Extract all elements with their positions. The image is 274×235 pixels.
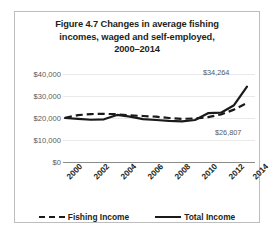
data-label-total-income: $34,264	[203, 68, 229, 77]
series-plot	[63, 74, 255, 174]
plot-wrapper: $40,000 $30,000 $20,000 $10,000 $0 $34,2…	[15, 74, 259, 174]
chart-title-line-3: 2000–2014	[25, 43, 249, 56]
legend-label-total-income: Total Income	[184, 212, 235, 222]
y-axis-tick-label: $30,000	[17, 92, 61, 101]
chart-legend: Fishing Income Total Income	[15, 209, 259, 225]
y-axis-tick-label: $20,000	[17, 114, 61, 123]
y-axis: $40,000 $30,000 $20,000 $10,000 $0	[15, 74, 61, 174]
chart-title-line-1: Figure 4.7 Changes in average fishing	[25, 18, 249, 31]
figure-container: Figure 4.7 Changes in average fishing in…	[14, 11, 260, 223]
y-axis-tick-label: $40,000	[17, 70, 61, 79]
chart-title-line-2: incomes, waged and self-employed,	[25, 31, 249, 44]
plot-area: $34,264 $26,807	[63, 74, 255, 174]
solid-line-icon	[155, 216, 181, 218]
legend-item-total-income: Total Income	[155, 212, 235, 222]
legend-label-fishing-income: Fishing Income	[68, 212, 129, 222]
legend-item-fishing-income: Fishing Income	[39, 212, 129, 222]
x-axis: 2000 2002 2004 2006 2008 2010 2012 2014	[63, 175, 255, 209]
y-axis-tick-label: $10,000	[17, 136, 61, 145]
series-line-fishing-income	[65, 103, 247, 119]
y-axis-tick-label: $0	[17, 158, 61, 167]
dashed-line-icon	[39, 216, 65, 218]
chart-title: Figure 4.7 Changes in average fishing in…	[25, 18, 249, 56]
data-label-fishing-income: $26,807	[215, 128, 241, 137]
